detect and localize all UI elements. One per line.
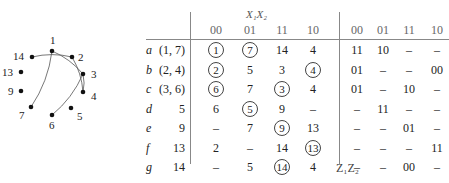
next-state-cell: 7 xyxy=(237,42,263,58)
next-state-cell: 13 xyxy=(300,140,326,156)
next-state-cell: 2 xyxy=(203,140,229,156)
next-state-cell: 4 xyxy=(300,42,326,58)
next-state-cell: – xyxy=(203,159,229,175)
x-column-header: 11 xyxy=(269,22,295,38)
graph-node xyxy=(29,105,34,110)
z-column-header: 01 xyxy=(370,22,396,38)
output-cell: 01 xyxy=(396,120,422,136)
next-state-cell: 6 xyxy=(203,101,229,117)
next-state-cell: 9 xyxy=(269,120,295,136)
graph-node-label: 13 xyxy=(2,66,14,78)
row-states: (3, 6) xyxy=(159,81,185,97)
output-cell: 00 xyxy=(424,62,449,78)
next-state-cell: 4 xyxy=(300,159,326,175)
graph-node-label: 1 xyxy=(50,34,56,46)
x-column-header: 00 xyxy=(203,22,229,38)
output-cell: 11 xyxy=(424,140,449,156)
stable-state-circle: 6 xyxy=(208,81,224,97)
output-cell: – xyxy=(396,140,422,156)
next-state-cell: 4 xyxy=(300,81,326,97)
output-cell: 00 xyxy=(396,159,422,175)
row-label: d xyxy=(146,101,152,117)
row-label: g xyxy=(146,159,152,175)
graph-edge xyxy=(32,55,72,57)
output-cell: 01 xyxy=(344,62,370,78)
output-cell: – xyxy=(424,159,449,175)
graph-edge xyxy=(83,74,84,92)
next-state-cell: 6 xyxy=(203,81,229,97)
stable-state-circle: 4 xyxy=(305,62,321,78)
x-column-header: 01 xyxy=(237,22,263,38)
output-cell: – xyxy=(344,101,370,117)
output-cell: – xyxy=(396,101,422,117)
output-cell: – xyxy=(424,120,449,136)
graph-node xyxy=(30,55,35,60)
output-cell: 11 xyxy=(370,101,396,117)
x-column-header: 10 xyxy=(300,22,326,38)
graph-node-label: 6 xyxy=(49,119,55,131)
row-states: 13 xyxy=(173,140,185,156)
graph-node xyxy=(19,89,24,94)
row-states: 5 xyxy=(179,101,185,117)
graph-node xyxy=(19,70,24,75)
output-cell: 01 xyxy=(344,81,370,97)
graph-node-label: 7 xyxy=(19,109,25,121)
row-label: e xyxy=(146,120,151,136)
next-state-cell: 14 xyxy=(269,42,295,58)
stable-state-circle: 7 xyxy=(242,42,258,58)
z-column-header: 00 xyxy=(344,22,370,38)
output-cell: – xyxy=(370,81,396,97)
next-state-cell: – xyxy=(203,120,229,136)
graph-node-label: 4 xyxy=(91,90,97,102)
graph-node xyxy=(50,49,55,54)
output-cell: – xyxy=(424,101,449,117)
row-label: a xyxy=(146,42,152,58)
output-cell: 10 xyxy=(370,42,396,58)
output-cell: – xyxy=(370,159,396,175)
row-label: c xyxy=(146,81,151,97)
next-state-cell: 14 xyxy=(269,140,295,156)
z-column-header: 10 xyxy=(424,22,449,38)
row-states: (2, 4) xyxy=(159,62,185,78)
graph-node xyxy=(70,55,75,60)
output-cell: – xyxy=(396,42,422,58)
graph-node-label: 3 xyxy=(91,68,97,80)
output-cell: – xyxy=(396,62,422,78)
next-state-cell: 5 xyxy=(237,159,263,175)
output-cell: – xyxy=(370,120,396,136)
stable-state-circle: 5 xyxy=(242,101,258,117)
next-state-cell: 4 xyxy=(300,62,326,78)
merger-graph: 123456791314 xyxy=(0,0,120,183)
output-cell: – xyxy=(424,42,449,58)
next-state-cell: 3 xyxy=(269,62,295,78)
row-label: f xyxy=(146,140,149,156)
row-states: (1, 7) xyxy=(159,42,185,58)
graph-node xyxy=(81,90,86,95)
graph-node xyxy=(81,72,86,77)
next-state-cell: 7 xyxy=(237,120,263,136)
stable-state-circle: 9 xyxy=(274,120,290,136)
stable-state-circle: 2 xyxy=(208,62,224,78)
next-state-cell: 14 xyxy=(269,159,295,175)
output-cell: – xyxy=(370,140,396,156)
next-state-cell: 9 xyxy=(269,101,295,117)
next-state-cell: 5 xyxy=(237,62,263,78)
stable-state-circle: 3 xyxy=(274,81,290,97)
output-cell: – xyxy=(424,81,449,97)
divider xyxy=(339,12,340,164)
next-state-cell: 7 xyxy=(237,81,263,97)
stable-state-circle: 13 xyxy=(305,140,321,156)
next-state-cell: 2 xyxy=(203,62,229,78)
z-column-header: 11 xyxy=(396,22,422,38)
graph-node-label: 2 xyxy=(78,51,84,63)
row-states: 9 xyxy=(179,120,185,136)
next-state-cell: 1 xyxy=(203,42,229,58)
next-state-cell: – xyxy=(237,140,263,156)
output-cell: 11 xyxy=(344,42,370,58)
output-cell: 10 xyxy=(396,81,422,97)
next-state-cell: – xyxy=(300,101,326,117)
graph-node-label: 14 xyxy=(13,50,25,62)
next-state-cell: 5 xyxy=(237,101,263,117)
next-state-cell: 3 xyxy=(269,81,295,97)
output-cell: – xyxy=(344,140,370,156)
